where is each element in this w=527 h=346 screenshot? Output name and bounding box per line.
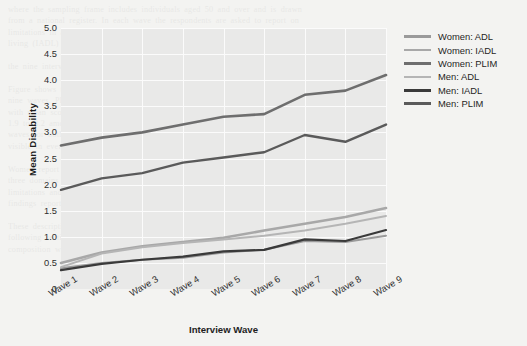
legend-swatch-line-icon xyxy=(404,62,431,65)
series-line xyxy=(61,75,386,145)
legend-label: Women: IADL xyxy=(438,45,496,56)
legend-label: Women: ADL xyxy=(438,31,493,42)
legend-label: Men: ADL xyxy=(438,71,479,82)
legend-label: Women: PLIM xyxy=(438,58,497,69)
legend-item[interactable]: Women: IADL xyxy=(404,43,524,56)
legend-swatch-line-icon xyxy=(404,76,431,79)
legend-swatch-line-icon xyxy=(404,102,431,105)
legend-swatch-line-icon xyxy=(404,89,431,92)
legend-item[interactable]: Men: ADL xyxy=(404,70,524,83)
legend-swatch-line-icon xyxy=(404,49,431,52)
legend-label: Men: PLIM xyxy=(438,98,483,109)
figure-container: 00.51.01.52.02.53.03.54.04.55.0 Mean Dis… xyxy=(0,6,527,344)
legend-label: Men: IADL xyxy=(438,85,482,96)
chart-legend: Women: ADLWomen: IADLWomen: PLIMMen: ADL… xyxy=(404,30,524,110)
legend-item[interactable]: Men: IADL xyxy=(404,84,524,97)
legend-swatch-line-icon xyxy=(404,35,431,38)
series-line xyxy=(61,125,386,190)
series-line xyxy=(61,208,386,263)
legend-item[interactable]: Women: ADL xyxy=(404,30,524,43)
legend-item[interactable]: Men: PLIM xyxy=(404,97,524,110)
legend-item[interactable]: Women: PLIM xyxy=(404,57,524,70)
x-axis-title: Interview Wave xyxy=(61,324,386,335)
